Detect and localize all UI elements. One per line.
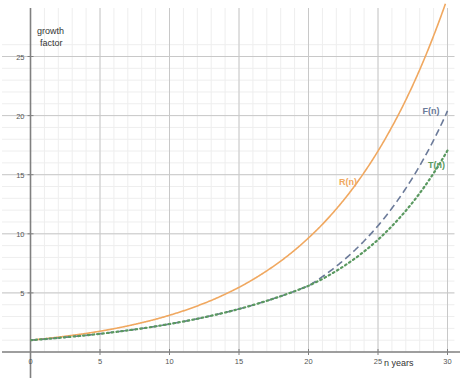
y-axis-title-line2: factor <box>40 38 63 48</box>
y-tick-label: 10 <box>16 230 24 239</box>
chart-plot-area: 051015202530510152025 R(n)F(n)T(n) growt… <box>0 0 467 382</box>
x-tick-label: 25 <box>374 357 382 366</box>
series-label-rn: R(n) <box>339 177 357 187</box>
x-tick-label: 0 <box>28 357 32 366</box>
series-label-fn: F(n) <box>422 106 439 116</box>
x-tick-label: 30 <box>443 357 451 366</box>
x-axis-title: n years <box>384 358 414 368</box>
y-tick-label: 25 <box>16 53 24 62</box>
x-tick-label: 20 <box>304 357 312 366</box>
y-tick-label: 20 <box>16 112 24 121</box>
x-tick-label: 15 <box>235 357 243 366</box>
x-tick-label: 5 <box>98 357 102 366</box>
y-tick-label: 5 <box>20 289 24 298</box>
y-tick-label: 15 <box>16 171 24 180</box>
growth-factor-chart: 051015202530510152025 R(n)F(n)T(n) growt… <box>0 0 467 382</box>
series-label-tn: T(n) <box>428 160 445 170</box>
chart-background <box>0 0 467 382</box>
x-tick-label: 10 <box>165 357 173 366</box>
y-axis-title-line1: growth <box>37 26 64 36</box>
